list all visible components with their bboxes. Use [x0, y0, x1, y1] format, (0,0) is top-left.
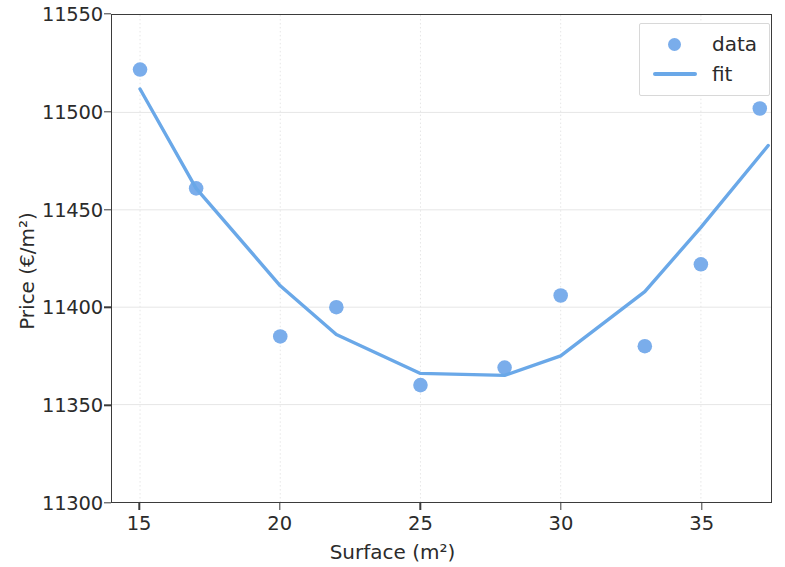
data-point [753, 101, 768, 116]
y-axis-tick-mark [104, 307, 111, 308]
y-axis-tick-mark [104, 502, 111, 503]
y-axis-tick-label: 11350 [42, 394, 103, 417]
x-axis-tick-label: 25 [408, 512, 433, 535]
x-axis-tick-label: 20 [267, 512, 292, 535]
legend-label: fit [712, 62, 732, 86]
legend-line-icon [653, 72, 697, 76]
x-axis-tick-label: 30 [549, 512, 574, 535]
data-point [133, 62, 148, 77]
x-axis-tick-mark [420, 503, 421, 510]
legend-marker-icon [668, 38, 681, 51]
x-axis-tick-labels: 1520253035 [0, 512, 785, 540]
x-axis-label: Surface (m²) [0, 540, 785, 564]
y-axis-label: Price (€/m²) [15, 121, 39, 421]
data-point [553, 288, 568, 303]
figure: 113001135011400114501150011550 152025303… [0, 0, 785, 567]
legend-label: data [712, 32, 757, 56]
x-axis-tick-mark [701, 503, 702, 510]
y-axis-tick-label: 11450 [42, 198, 103, 221]
y-axis-tick-label: 11500 [42, 100, 103, 123]
data-point [694, 257, 709, 272]
x-axis-tick-mark [560, 503, 561, 510]
x-axis-tick-label: 35 [689, 512, 714, 535]
data-point [638, 339, 653, 354]
y-axis-tick-label: 11400 [42, 296, 103, 319]
data-point [413, 378, 428, 393]
x-axis-tick-mark [279, 503, 280, 510]
y-axis-tick-mark [104, 13, 111, 14]
x-axis-tick-label: 15 [127, 512, 152, 535]
legend-entry: data [652, 31, 757, 57]
data-point [329, 300, 344, 315]
data-point [273, 329, 288, 344]
legend: datafit [639, 23, 770, 96]
y-axis-tick-mark [104, 404, 111, 405]
y-axis-tick-mark [104, 209, 111, 210]
y-axis-tick-mark [104, 111, 111, 112]
y-axis-tick-label: 11550 [42, 3, 103, 26]
x-axis-tick-mark [138, 503, 139, 510]
legend-entry: fit [652, 61, 757, 87]
fit-line [140, 89, 768, 375]
